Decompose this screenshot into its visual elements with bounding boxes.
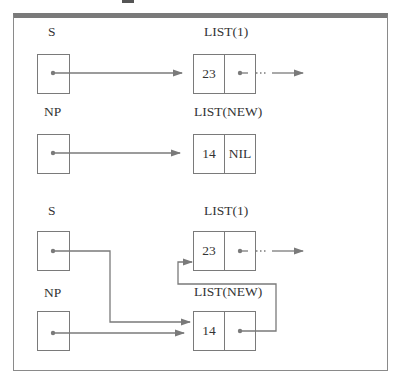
top-scan-mark: [122, 0, 134, 3]
node-value: 23: [194, 232, 224, 270]
list-node-14-2: 14: [193, 311, 256, 351]
node-next: [224, 232, 255, 270]
list-node-14-1: 14 NIL: [193, 134, 256, 174]
pointer-box-np-2: [37, 311, 70, 351]
pointer-label-s-2: S: [48, 203, 56, 219]
node-next: [224, 55, 255, 93]
node-label-list1-2: LIST(1): [204, 203, 248, 219]
node-label-listnew-2: LIST(NEW): [194, 284, 262, 300]
pointer-label-s-1: S: [48, 24, 56, 40]
list-node-23-1: 23: [193, 54, 256, 94]
node-label-list1-1: LIST(1): [204, 24, 248, 40]
node-value: 14: [194, 135, 224, 173]
node-next: [224, 312, 255, 350]
node-value: 23: [194, 55, 224, 93]
pointer-label-np-1: NP: [44, 104, 61, 120]
pointer-box-s-2: [37, 231, 70, 271]
pointer-box-np-1: [37, 134, 70, 174]
list-node-23-2: 23: [193, 231, 256, 271]
node-label-listnew-1: LIST(NEW): [194, 104, 262, 120]
pointer-label-np-2: NP: [44, 285, 61, 301]
node-next-nil: NIL: [224, 135, 255, 173]
pointer-box-s-1: [37, 54, 70, 94]
node-value: 14: [194, 312, 224, 350]
